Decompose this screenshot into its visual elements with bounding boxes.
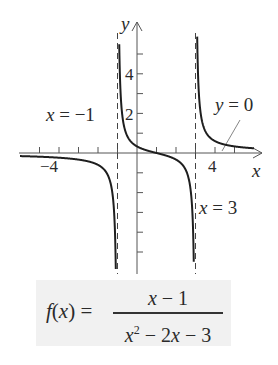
y-tick-label-2: 2: [125, 106, 134, 123]
function-plot: [0, 0, 278, 280]
fraction-bar: [113, 312, 223, 314]
asymptote-label-y-0: y = 0: [215, 95, 253, 114]
curve-left-branch: [20, 156, 116, 269]
asymptote-label-x-3: x = 3: [199, 198, 237, 217]
formula-fraction: x − 1 x2 − 2x − 3: [113, 285, 223, 343]
formula-box: f(x) = x − 1 x2 − 2x − 3: [36, 280, 231, 346]
x-tick-label-4: 4: [208, 158, 217, 175]
y-axis-label: y: [121, 14, 129, 33]
formula-lhs: f(x) =: [46, 301, 92, 322]
curve-right-branch: [197, 37, 254, 149]
formula-denominator: x2 − 2x − 3: [113, 317, 223, 343]
asymptote-label-x-neg1: x = −1: [46, 105, 95, 124]
formula-numerator: x − 1: [113, 285, 223, 311]
y-tick-label-4: 4: [125, 66, 134, 83]
x-axis-label: x: [252, 161, 260, 180]
x-tick-label-neg4: −4: [40, 158, 58, 175]
